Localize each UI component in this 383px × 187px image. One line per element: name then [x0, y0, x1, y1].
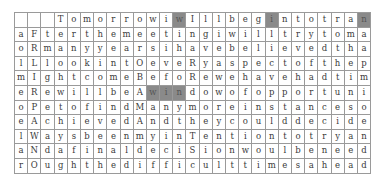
grid-cell[interactable]: e — [146, 27, 159, 42]
grid-cell[interactable]: t — [54, 100, 67, 115]
grid-cell[interactable]: c — [265, 56, 278, 71]
grid-cell[interactable]: w — [226, 27, 239, 42]
grid-cell[interactable]: e — [199, 129, 212, 144]
grid-cell[interactable]: i — [239, 27, 252, 42]
grid-cell[interactable]: e — [331, 158, 344, 173]
grid-cell[interactable]: e — [120, 71, 133, 86]
grid-cell[interactable]: o — [199, 85, 212, 100]
grid-cell[interactable]: m — [120, 27, 133, 42]
grid-cell[interactable]: i — [199, 144, 212, 159]
grid-cell[interactable]: l — [212, 13, 225, 28]
grid-cell[interactable]: e — [278, 71, 291, 86]
grid-cell[interactable]: e — [305, 115, 318, 130]
grid-cell-highlighted[interactable]: n — [173, 85, 186, 100]
grid-cell[interactable]: n — [305, 100, 318, 115]
grid-cell[interactable]: a — [120, 42, 133, 57]
grid-cell[interactable]: P — [28, 100, 41, 115]
grid-cell[interactable]: v — [291, 42, 304, 57]
grid-cell[interactable]: o — [291, 85, 304, 100]
grid-cell[interactable]: o — [239, 115, 252, 130]
grid-cell[interactable]: h — [344, 42, 357, 57]
grid-cell[interactable]: r — [291, 27, 304, 42]
grid-cell[interactable]: d — [278, 115, 291, 130]
grid-cell[interactable]: p — [278, 85, 291, 100]
grid-cell[interactable]: u — [252, 115, 265, 130]
grid-cell[interactable]: e — [278, 42, 291, 57]
grid-cell[interactable]: R — [28, 42, 41, 57]
grid-cell[interactable]: n — [265, 129, 278, 144]
grid-cell[interactable]: l — [15, 129, 28, 144]
grid-cell[interactable]: a — [305, 71, 318, 86]
grid-cell[interactable]: n — [318, 144, 331, 159]
grid-cell[interactable]: a — [146, 100, 159, 115]
grid-cell[interactable]: t — [278, 100, 291, 115]
grid-cell[interactable]: n — [186, 27, 199, 42]
grid-cell[interactable]: o — [252, 144, 265, 159]
grid-cell[interactable]: h — [67, 158, 80, 173]
grid-cell[interactable]: e — [278, 158, 291, 173]
grid-cell-highlighted[interactable]: i — [160, 85, 173, 100]
grid-cell[interactable]: c — [226, 115, 239, 130]
grid-cell[interactable]: e — [54, 27, 67, 42]
grid-cell[interactable]: w — [212, 71, 225, 86]
grid-cell-highlighted[interactable]: i — [265, 13, 278, 28]
grid-cell[interactable]: n — [120, 129, 133, 144]
grid-cell[interactable]: T — [186, 129, 199, 144]
grid-cell[interactable]: y — [331, 129, 344, 144]
grid-cell[interactable]: l — [212, 158, 225, 173]
grid-cell[interactable]: i — [265, 42, 278, 57]
grid-cell[interactable]: t — [278, 129, 291, 144]
grid-cell[interactable]: r — [67, 27, 80, 42]
grid-cell[interactable]: p — [239, 56, 252, 71]
grid-cell[interactable]: t — [318, 85, 331, 100]
grid-cell[interactable]: o — [331, 27, 344, 42]
grid-cell[interactable]: a — [54, 144, 67, 159]
grid-cell[interactable]: T — [54, 13, 67, 28]
grid-cell[interactable]: o — [15, 100, 28, 115]
grid-cell[interactable]: I — [28, 71, 41, 86]
grid-cell[interactable]: y — [54, 129, 67, 144]
grid-cell[interactable]: i — [67, 85, 80, 100]
grid-cell[interactable]: M — [133, 100, 146, 115]
grid-cell[interactable]: c — [318, 100, 331, 115]
grid-cell[interactable]: e — [41, 100, 54, 115]
grid-cell[interactable]: w — [239, 144, 252, 159]
grid-cell[interactable]: e — [226, 71, 239, 86]
grid-cell[interactable]: y — [146, 129, 159, 144]
grid-cell[interactable]: l — [15, 56, 28, 71]
grid-cell[interactable]: i — [344, 71, 357, 86]
grid-cell[interactable]: g — [54, 158, 67, 173]
grid-cell[interactable]: u — [265, 144, 278, 159]
grid-cell[interactable]: r — [107, 13, 120, 28]
grid-cell[interactable]: c — [41, 115, 54, 130]
grid-cell[interactable]: l — [120, 144, 133, 159]
grid-cell[interactable]: t — [278, 56, 291, 71]
grid-cell[interactable]: n — [107, 56, 120, 71]
grid-cell[interactable]: b — [80, 129, 93, 144]
grid-cell[interactable]: e — [41, 85, 54, 100]
grid-cell[interactable]: e — [226, 100, 239, 115]
grid-cell[interactable]: d — [291, 115, 304, 130]
grid-cell[interactable]: a — [54, 42, 67, 57]
grid-cell[interactable]: d — [160, 115, 173, 130]
grid-cell[interactable]: l — [265, 115, 278, 130]
grid-cell[interactable]: h — [239, 71, 252, 86]
grid-cell-highlighted[interactable]: n — [357, 13, 370, 28]
grid-cell[interactable]: f — [146, 158, 159, 173]
grid-cell[interactable]: l — [94, 85, 107, 100]
grid-cell[interactable]: w — [146, 13, 159, 28]
grid-cell[interactable]: g — [199, 27, 212, 42]
grid-cell[interactable]: o — [54, 56, 67, 71]
grid-cell[interactable]: e — [146, 56, 159, 71]
grid-cell[interactable]: d — [318, 42, 331, 57]
grid-cell[interactable]: s — [226, 56, 239, 71]
grid-cell[interactable]: d — [120, 115, 133, 130]
grid-cell[interactable]: e — [305, 42, 318, 57]
grid-cell[interactable]: h — [94, 158, 107, 173]
grid-cell[interactable]: f — [160, 71, 173, 86]
grid-cell[interactable]: r — [212, 100, 225, 115]
grid-cell[interactable]: i — [94, 100, 107, 115]
grid-cell[interactable]: a — [252, 71, 265, 86]
grid-cell[interactable]: d — [357, 144, 370, 159]
grid-cell[interactable]: b — [226, 13, 239, 28]
